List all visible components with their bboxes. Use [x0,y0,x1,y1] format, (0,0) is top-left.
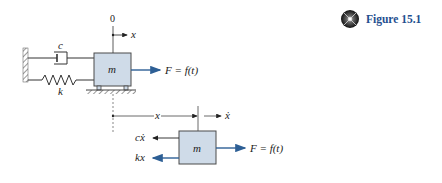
fixed-wall [23,48,28,82]
spring [28,75,94,85]
damper [28,52,94,64]
displacement-label: x [154,109,160,121]
mass-label: m [108,63,116,75]
figure-header[interactable]: Figure 15.1 [341,10,422,28]
x-axis-label: x [130,28,136,40]
fbd-applied-force-label: F = f(t) [249,142,283,155]
spring-label: k [58,85,64,97]
wheel-right [124,86,128,90]
ground [86,90,136,94]
damper-label: c [58,39,63,51]
applied-force-label: F = f(t) [164,64,198,77]
wheel-left [97,86,101,90]
velocity-label: ẋ [224,109,230,121]
damping-force-label: cẋ [135,131,145,143]
figure-title: Figure 15.1 [366,13,422,26]
mass-spring-damper-figure: c k m 0 x F = f(t) x ẋ m [0,0,442,183]
fbd-mass-label: m [193,142,201,154]
free-body-diagram: x ẋ m cẋ kx F = f(t) [112,106,284,164]
system-diagram: c k m 0 x F = f(t) [23,13,198,132]
origin-label: 0 [110,13,115,24]
animation-disc-icon[interactable] [341,10,359,28]
spring-force-label: kx [135,151,145,163]
